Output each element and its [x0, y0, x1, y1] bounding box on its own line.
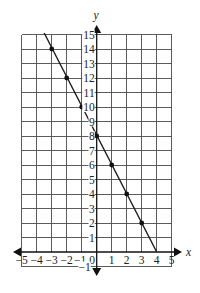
x-axis-label: x: [185, 246, 192, 258]
y-tick-label: −1: [78, 261, 90, 273]
x-tick-label: 5: [169, 254, 175, 266]
x-tick-label: 2: [124, 254, 130, 266]
x-tick-label: 1: [109, 254, 115, 266]
y-axis-down-arrow-icon: [92, 268, 101, 276]
y-tick-label: 8: [89, 130, 95, 142]
data-point: [124, 192, 129, 197]
x-tick-label: −2: [61, 254, 73, 266]
x-tick-label: 3: [139, 254, 145, 266]
y-tick-label: 4: [89, 188, 95, 200]
series: [44, 33, 157, 252]
x-tick-label: −3: [46, 254, 58, 266]
y-tick-label: 12: [83, 72, 95, 84]
data-point: [109, 163, 114, 168]
series-line: [44, 33, 157, 252]
y-tick-label: 7: [89, 145, 95, 157]
data-point: [64, 76, 69, 81]
y-tick-label: 1: [89, 232, 95, 244]
y-axis-label: y: [93, 9, 100, 22]
y-tick-label: 10: [83, 101, 95, 113]
y-tick-label: 13: [83, 58, 95, 70]
y-tick-label: 3: [89, 203, 95, 215]
x-tick-label: 4: [154, 254, 160, 266]
y-tick-label: 5: [89, 174, 95, 186]
data-point: [139, 221, 144, 226]
x-tick-label: −4: [31, 254, 43, 266]
coordinate-plane-chart: −5−4−3−2−1012345−1123456789101112131415 …: [0, 0, 200, 293]
y-tick-label: 14: [83, 43, 95, 55]
x-tick-label: −5: [16, 254, 28, 266]
y-tick-label: 11: [84, 87, 95, 99]
y-tick-label: 9: [89, 116, 95, 128]
x-axis-right-arrow-icon: [174, 248, 182, 257]
y-tick-label: 2: [89, 217, 95, 229]
y-tick-label: 15: [83, 29, 95, 41]
data-point: [94, 134, 99, 139]
data-point: [49, 47, 54, 52]
y-tick-label: 6: [89, 159, 95, 171]
